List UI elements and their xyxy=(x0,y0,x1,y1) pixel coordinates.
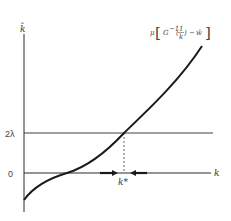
svg-text:−: − xyxy=(189,29,195,37)
tick-two-lambda: 2λ xyxy=(5,129,15,139)
k-star-label: k* xyxy=(118,177,128,187)
y-axis-label: k̂ xyxy=(20,22,25,34)
left-arrow-icon xyxy=(130,170,147,176)
svg-text:1: 1 xyxy=(179,25,183,33)
svg-text:w̄: w̄ xyxy=(196,29,202,37)
svg-text:[: [ xyxy=(155,24,161,42)
curve-label: μ [ G −1 ( 1 k ) − w̄ ] xyxy=(150,24,211,42)
mu-curve xyxy=(24,46,202,200)
tick-zero: 0 xyxy=(8,169,13,179)
svg-text:k: k xyxy=(179,33,183,41)
svg-text:]: ] xyxy=(205,24,211,42)
svg-text:): ) xyxy=(183,29,187,37)
phase-diagram: k̂ k 2λ 0 k* μ [ G −1 ( 1 k ) − w̄ ] xyxy=(0,0,231,221)
x-axis-label: k xyxy=(214,168,219,178)
right-arrow-icon xyxy=(100,170,118,176)
